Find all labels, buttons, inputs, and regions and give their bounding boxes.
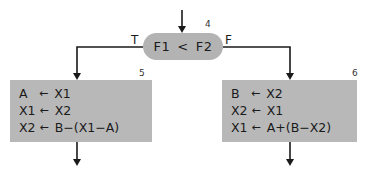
false-branch-connector <box>223 47 294 80</box>
assign-arrow-icon: ← <box>251 85 260 102</box>
true-branch-label: T <box>131 34 138 46</box>
decision-right-operand: F2 <box>196 39 213 54</box>
false-exit-arrow <box>286 142 294 166</box>
true-exit-arrow <box>73 142 81 166</box>
assign-arrow-icon: ← <box>252 102 261 119</box>
false-process-block: B ← X2 X2 ← X1 X1 ← A+(B−X2) <box>222 80 357 142</box>
entry-arrow <box>178 10 186 33</box>
true-branch-connector <box>73 47 143 80</box>
statement: X1 ← X2 <box>19 102 152 119</box>
false-branch-label: F <box>225 34 232 46</box>
statement-expression: X2 <box>55 102 72 119</box>
assign-arrow-icon: ← <box>39 85 48 102</box>
statement-target: X2 <box>19 119 36 136</box>
statement-target: X1 <box>231 119 248 136</box>
decision-operator: < <box>177 39 188 54</box>
statement: X2 ← X1 <box>231 102 357 119</box>
statement-expression: X2 <box>266 85 283 102</box>
statement-expression: B−(X1−A) <box>55 119 119 136</box>
true-process-block: A ← X1 X1 ← X2 X2 ← B−(X1−A) <box>10 80 152 142</box>
statement: X1 ← A+(B−X2) <box>231 119 357 136</box>
decision-node: F1 < F2 <box>143 33 223 60</box>
statement-expression: X1 <box>54 85 71 102</box>
statement-target: B <box>231 85 247 102</box>
statement: X2 ← B−(X1−A) <box>19 119 152 136</box>
assign-arrow-icon: ← <box>40 119 49 136</box>
true-block-number: 5 <box>139 69 145 78</box>
statement-target: X2 <box>231 102 248 119</box>
assign-arrow-icon: ← <box>40 102 49 119</box>
statement-target: A <box>19 85 35 102</box>
statement: B ← X2 <box>231 85 357 102</box>
statement: A ← X1 <box>19 85 152 102</box>
statement-target: X1 <box>19 102 36 119</box>
decision-left-operand: F1 <box>154 39 171 54</box>
false-block-number: 6 <box>352 69 358 78</box>
decision-node-number: 4 <box>205 20 211 29</box>
statement-expression: X1 <box>267 102 284 119</box>
assign-arrow-icon: ← <box>252 119 261 136</box>
statement-expression: A+(B−X2) <box>267 119 331 136</box>
